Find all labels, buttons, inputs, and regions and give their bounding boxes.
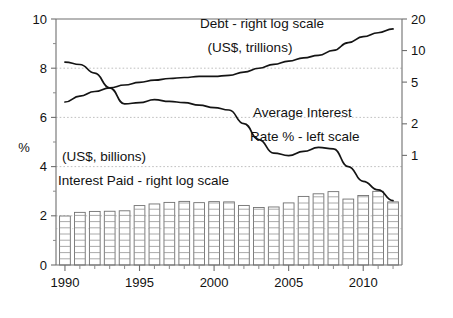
bar-2010 bbox=[358, 196, 369, 265]
tick-label-left-4: 4 bbox=[40, 159, 47, 174]
annotation-interest-paid-line1: (US$, billions) bbox=[62, 149, 146, 164]
tick-label-right-10: 10 bbox=[411, 43, 425, 58]
tick-label-bottom-1990: 1990 bbox=[50, 275, 79, 290]
bar-2007 bbox=[313, 194, 324, 265]
annotation-interest-paid-line2: Interest Paid - right log scale bbox=[58, 173, 229, 188]
bar-1992 bbox=[89, 211, 100, 265]
bar-2006 bbox=[298, 196, 309, 265]
tick-label-bottom-1995: 1995 bbox=[125, 275, 154, 290]
bar-1990 bbox=[60, 216, 71, 265]
bar-2008 bbox=[328, 192, 339, 265]
bar-2002 bbox=[239, 205, 250, 265]
chart-container: 0246810125102019901995200020052010 % Deb… bbox=[0, 0, 453, 318]
bar-1999 bbox=[194, 203, 205, 265]
interest-paid-bars bbox=[60, 191, 399, 265]
bar-1996 bbox=[149, 204, 160, 265]
tick-label-left-6: 6 bbox=[40, 110, 47, 125]
bar-1995 bbox=[134, 206, 145, 265]
tick-label-right-5: 5 bbox=[411, 75, 418, 90]
tick-label-bottom-2005: 2005 bbox=[274, 275, 303, 290]
annotation-rate-line1: Average Interest bbox=[253, 105, 352, 120]
chart-canvas: 0246810125102019901995200020052010 % Deb… bbox=[0, 0, 453, 318]
tick-label-left-2: 2 bbox=[40, 208, 47, 223]
tick-label-bottom-2010: 2010 bbox=[349, 275, 378, 290]
annotation-debt-line2: (US$, trillions) bbox=[208, 40, 293, 55]
left-axis-title: % bbox=[18, 140, 30, 155]
bar-2000 bbox=[209, 202, 220, 265]
tick-label-right-1: 1 bbox=[411, 148, 418, 163]
bar-2003 bbox=[253, 208, 264, 265]
bar-2001 bbox=[224, 202, 235, 265]
bar-2009 bbox=[343, 199, 354, 265]
tick-label-left-8: 8 bbox=[40, 61, 47, 76]
bar-1997 bbox=[164, 202, 175, 265]
tick-label-left-0: 0 bbox=[40, 258, 47, 273]
bar-2004 bbox=[268, 207, 279, 265]
tick-label-bottom-2000: 2000 bbox=[200, 275, 229, 290]
bar-1993 bbox=[104, 211, 115, 265]
tick-label-left-10: 10 bbox=[33, 12, 47, 27]
tick-label-right-20: 20 bbox=[411, 12, 425, 27]
bar-1994 bbox=[119, 211, 130, 265]
bar-1991 bbox=[74, 212, 85, 265]
bar-2005 bbox=[283, 203, 294, 265]
bar-1998 bbox=[179, 201, 190, 265]
tick-label-right-2: 2 bbox=[411, 116, 418, 131]
bar-2012 bbox=[388, 202, 399, 265]
bar-2011 bbox=[373, 191, 384, 265]
annotation-rate-line2: Rate % - left scale bbox=[250, 129, 360, 144]
annotation-debt-line1: Debt - right log scale bbox=[200, 16, 324, 31]
